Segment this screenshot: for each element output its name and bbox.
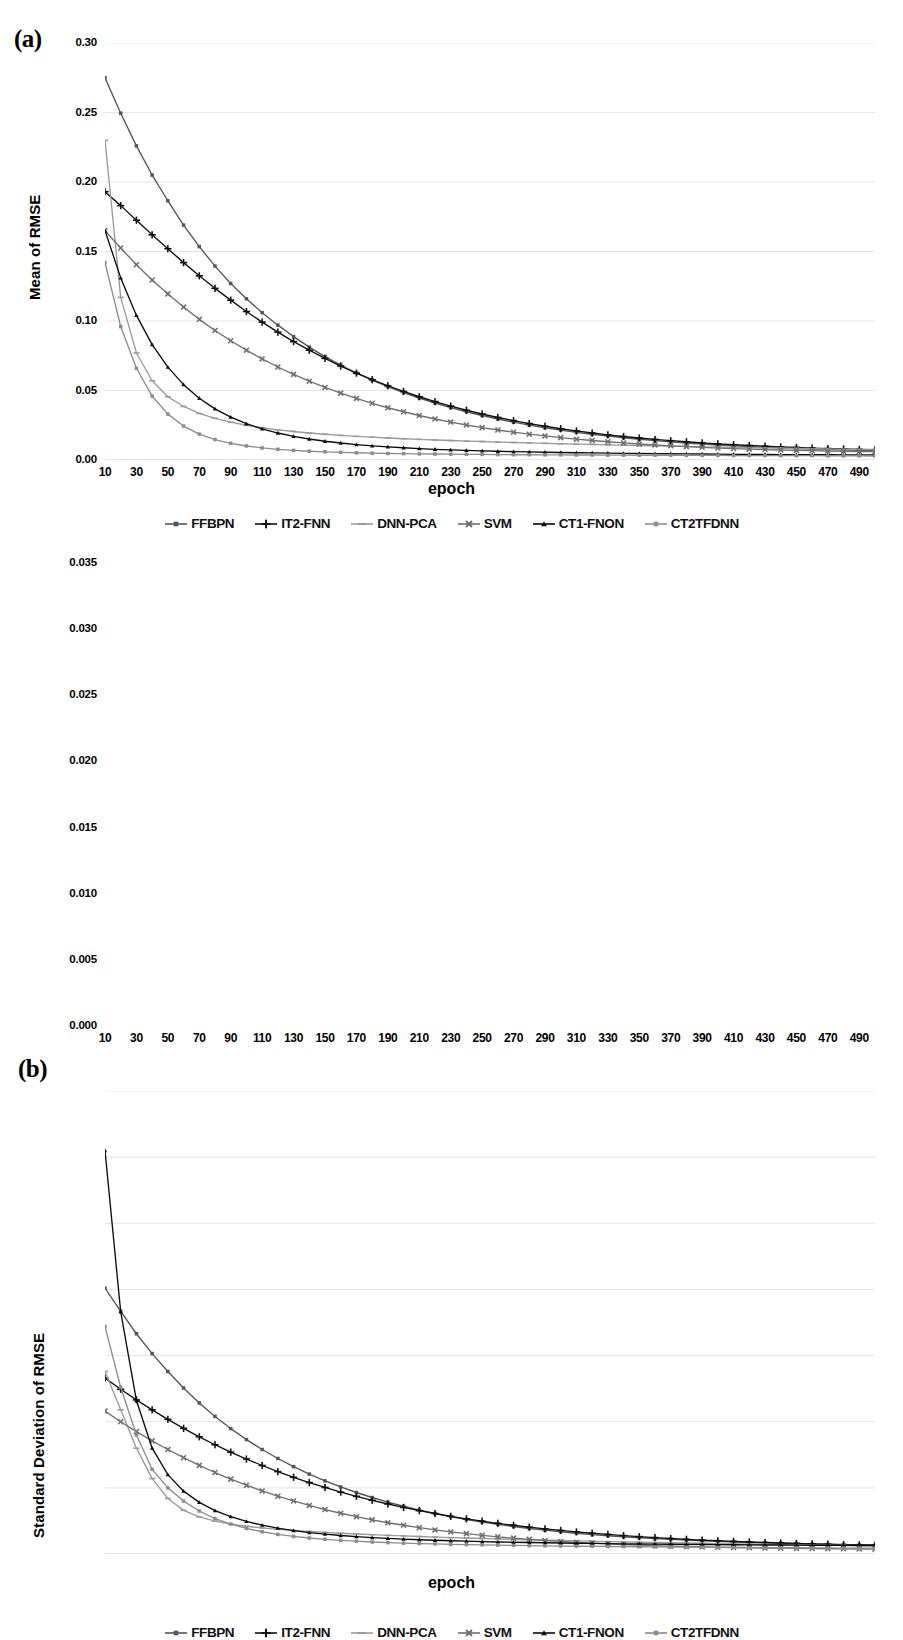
- data-point-marker-square: [748, 1546, 752, 1550]
- data-point-marker-dash: [118, 1409, 124, 1411]
- data-point-marker-dash: [275, 429, 281, 431]
- data-point-marker-plus: [651, 436, 658, 443]
- data-point-marker-square: [276, 448, 280, 452]
- data-point-marker-plus: [479, 1518, 486, 1525]
- data-point-marker-diamond: [260, 1448, 264, 1452]
- data-point-marker-square: [119, 1386, 123, 1390]
- data-point-marker-square: [873, 454, 875, 458]
- data-point-marker-x: [118, 246, 123, 251]
- data-point-marker-square: [339, 1539, 343, 1543]
- data-point-marker-diamond: [198, 1401, 202, 1405]
- data-point-marker-diamond: [276, 323, 280, 327]
- legend-item-ffbpn[interactable]: FFBPN: [164, 1625, 234, 1640]
- legend-item-label: SVM: [484, 1625, 512, 1640]
- data-point-marker-square: [355, 451, 359, 455]
- data-point-marker-diamond: [135, 144, 139, 148]
- data-point-marker-dash: [212, 1520, 218, 1522]
- data-point-marker-square: [858, 454, 862, 458]
- data-point-marker-diamond: [245, 297, 249, 301]
- data-point-marker-plus: [667, 1535, 674, 1542]
- legend-item-svm[interactable]: SVM: [457, 1625, 512, 1640]
- data-point-marker-diamond: [292, 335, 296, 339]
- data-point-marker-square: [543, 453, 547, 457]
- data-point-marker-square: [370, 451, 374, 455]
- data-point-marker-diamond: [174, 1630, 179, 1635]
- legend-marker-dash-icon: [350, 1626, 374, 1640]
- data-point-marker-plus: [243, 1455, 250, 1462]
- data-point-marker-plus: [259, 319, 266, 326]
- data-point-marker-plus: [620, 1532, 627, 1539]
- legend-item-label: IT2-FNN: [281, 1625, 330, 1640]
- data-point-marker-dash: [212, 418, 218, 420]
- data-point-marker-dash: [149, 380, 155, 382]
- y-axis-tick-label: 0.20: [63, 175, 97, 187]
- data-point-marker-diamond: [323, 1479, 327, 1483]
- x-axis-tick-label: 370: [654, 1031, 688, 1045]
- x-axis-tick-label: 90: [214, 1031, 248, 1045]
- data-point-marker-triangle: [150, 1446, 154, 1450]
- data-point-marker-square: [528, 1544, 532, 1548]
- legend-item-it2-fnn[interactable]: IT2-FNN: [254, 1625, 330, 1640]
- data-point-marker-square: [213, 438, 217, 442]
- legend-marker-triangle-icon: [532, 1626, 556, 1640]
- data-point-marker-plus: [321, 355, 328, 362]
- data-point-marker-diamond: [105, 1286, 107, 1290]
- data-point-marker-square: [198, 432, 202, 436]
- data-point-marker-x: [165, 291, 170, 296]
- data-point-marker-square: [496, 1543, 500, 1547]
- data-point-marker-square: [810, 1546, 814, 1550]
- x-axis-tick-label: 410: [717, 1031, 751, 1045]
- x-axis-tick-label: 490: [842, 1031, 876, 1045]
- data-point-marker-plus: [573, 1528, 580, 1535]
- panel-b-tag: (b): [18, 1055, 47, 1083]
- data-point-marker-diamond: [182, 223, 186, 227]
- data-point-marker-square: [858, 1546, 862, 1550]
- legend-item-dnn-pca[interactable]: DNN-PCA: [350, 1625, 436, 1640]
- data-point-marker-plus: [321, 1484, 328, 1491]
- data-point-marker-square: [465, 1543, 469, 1547]
- panel-b-legend: FFBPNIT2-FNNDNN-PCASVMCT1-FNONCT2TFDNN: [0, 1625, 903, 1640]
- data-point-marker-square: [559, 453, 563, 457]
- data-point-marker-plus: [416, 1507, 423, 1514]
- x-axis-tick-label: 230: [434, 465, 468, 479]
- data-point-marker-square: [795, 1546, 799, 1550]
- y-axis-tick-label: 0.10: [63, 314, 97, 326]
- data-point-marker-dash: [558, 443, 564, 445]
- data-point-marker-x: [213, 328, 218, 333]
- series-ffbpn: [105, 1286, 875, 1547]
- data-point-marker-dash: [511, 442, 517, 444]
- panel-a-x-axis-title: epoch: [0, 480, 903, 498]
- legend-marker-diamond-icon: [164, 1626, 188, 1640]
- x-axis-tick-label: 10: [88, 465, 122, 479]
- data-point-marker-plus: [274, 1468, 281, 1475]
- panel-b: (b) Standard Deviation of RMSE epoch FFB…: [0, 528, 903, 1147]
- data-point-marker-square: [575, 1544, 579, 1548]
- y-axis-tick-label: 0.020: [57, 754, 97, 766]
- data-point-marker-dash: [306, 432, 312, 434]
- data-point-marker-square: [700, 454, 704, 458]
- data-point-marker-plus: [149, 1406, 156, 1413]
- data-point-marker-square: [810, 454, 814, 458]
- x-axis-tick-label: 150: [308, 465, 342, 479]
- data-point-marker-x: [181, 305, 186, 310]
- panel-a-y-axis-title: Mean of RMSE: [26, 195, 43, 300]
- legend-item-ct1-fnon[interactable]: CT1-FNON: [532, 1625, 624, 1640]
- data-point-marker-square: [685, 454, 689, 458]
- data-point-marker-plus: [636, 434, 643, 441]
- x-axis-tick-label: 130: [277, 1031, 311, 1045]
- data-point-marker-square: [638, 454, 642, 458]
- data-point-marker-plus: [306, 347, 313, 354]
- panel-a: (a) Mean of RMSE epoch FFBPNIT2-FNNDNN-P…: [0, 0, 903, 545]
- data-point-marker-square: [119, 325, 123, 329]
- data-point-marker-dash: [495, 441, 501, 443]
- x-axis-tick-label: 390: [685, 465, 719, 479]
- x-axis-tick-label: 30: [119, 1031, 153, 1045]
- data-point-marker-square: [512, 1544, 515, 1548]
- panel-b-y-axis-title: Standard Deviation of RMSE: [30, 1333, 47, 1538]
- data-point-marker-diamond: [150, 173, 154, 177]
- data-point-marker-dash: [385, 1535, 391, 1537]
- data-point-marker-square: [386, 452, 390, 456]
- data-point-marker-square: [150, 1468, 154, 1472]
- legend-item-ct2tfdnn[interactable]: CT2TFDNN: [644, 1625, 739, 1640]
